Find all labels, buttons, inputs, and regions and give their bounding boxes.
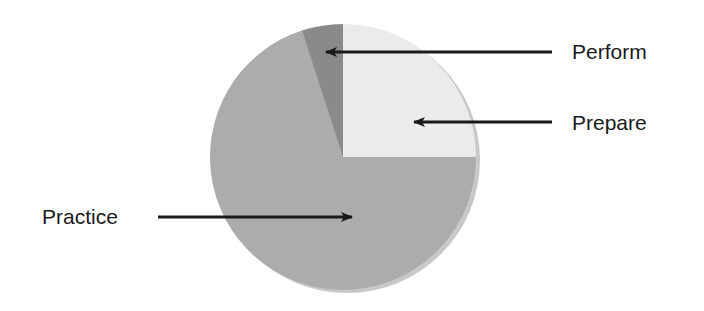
pie-slices: [210, 24, 476, 290]
slice-prepare: [343, 24, 476, 157]
label-perform: Perform: [572, 41, 647, 62]
label-prepare: Prepare: [572, 112, 647, 133]
label-practice: Practice: [42, 206, 118, 227]
